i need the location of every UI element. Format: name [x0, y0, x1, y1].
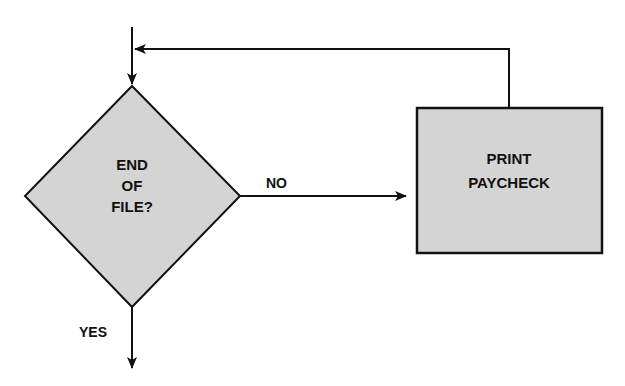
- process-label-line-2: PAYCHECK: [416, 171, 602, 195]
- decision-label: END OF FILE?: [82, 154, 182, 217]
- no-edge-label: NO: [266, 173, 287, 193]
- yes-edge-label: YES: [79, 322, 107, 342]
- flowchart-diagram: END OF FILE? PRINT PAYCHECK NO YES: [0, 0, 625, 386]
- process-label-line-1: PRINT: [416, 147, 602, 171]
- loop-back-arrow: [135, 49, 509, 107]
- decision-label-line-1: END: [82, 154, 182, 175]
- process-label: PRINT PAYCHECK: [416, 147, 602, 195]
- decision-label-line-3: FILE?: [82, 196, 182, 217]
- decision-label-line-2: OF: [82, 175, 182, 196]
